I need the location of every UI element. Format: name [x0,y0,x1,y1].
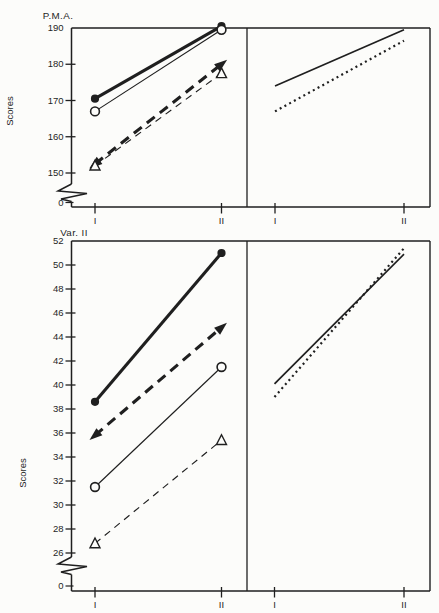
y-tick-label: 150 [48,167,64,178]
y-tick-label: 32 [53,475,64,486]
series-line-filled-triangle-dashed-thick [95,64,222,164]
y-tick-label: 190 [48,22,64,33]
pma-var2-figure: 1901801701601500IIIIIIP.M.A.Scores525048… [0,0,439,613]
chart-pma: 1901801701601500IIIIIIP.M.A.Scores [4,10,430,226]
x-tick-label: II [219,215,224,226]
x-tick-label: II [219,599,224,610]
open-circle-marker [91,107,100,116]
series-line-solid-line [275,30,404,86]
y-tick-label: 34 [53,451,64,462]
series-line-filled-circle-solid-thick [95,26,222,99]
open-circle-marker [91,483,100,492]
series-line-open-triangle-dashed-thin [95,440,222,543]
open-triangle-marker [90,538,100,548]
y-zero-label: 0 [58,580,63,591]
y-axis-label: Scores [4,96,15,126]
y-tick-label: 36 [53,427,64,438]
y-tick-label: 170 [48,95,64,106]
filled-triangle-marker [214,319,230,334]
chart-title: P.M.A. [43,10,74,21]
x-tick-label: I [94,215,97,226]
x-tick-label: I [94,599,97,610]
series-line-solid-line [275,254,405,384]
chart-title: Var. II [60,227,88,238]
filled-circle-marker [91,398,99,406]
y-tick-label: 40 [53,379,64,390]
y-tick-label: 44 [53,331,64,342]
filled-circle-marker [217,249,225,257]
series-line-open-circle-solid-thin [95,367,222,487]
y-tick-label: 48 [53,283,64,294]
y-tick-label: 30 [53,499,64,510]
y-tick-label: 180 [48,58,64,69]
y-tick-label: 50 [53,259,64,270]
open-triangle-marker [217,435,227,445]
open-circle-marker [217,25,226,34]
open-triangle-marker [217,68,227,78]
x-tick-label: II [401,215,406,226]
y-tick-label: 42 [53,355,64,366]
figure-canvas: 1901801701601500IIIIIIP.M.A.Scores525048… [0,0,439,613]
x-tick-label: II [401,599,406,610]
y-zero-label: 0 [58,197,63,208]
y-axis-break-zigzag [58,557,87,575]
y-tick-label: 26 [53,547,64,558]
y-tick-label: 46 [53,307,64,318]
chart-var2: 52504846444240383634323028260IIIIIIVar. … [17,227,430,610]
y-tick-label: 38 [53,403,64,414]
series-line-dotted-line [275,248,405,397]
open-circle-marker [217,363,226,372]
y-tick-label: 28 [53,523,64,534]
x-tick-label: I [274,215,277,226]
series-line-open-circle-solid-thin [95,30,222,112]
series-line-dotted-line [275,41,404,112]
y-tick-label: 160 [48,131,64,142]
y-axis-label: Scores [17,458,28,488]
x-tick-label: I [273,599,276,610]
filled-circle-marker [91,95,99,103]
